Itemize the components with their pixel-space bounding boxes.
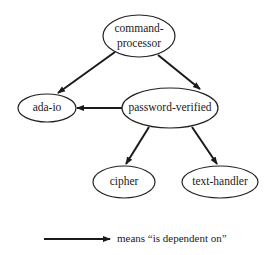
node-password-verified-label: password-verified — [128, 101, 211, 114]
edge-command-processor-to-password-verified — [158, 55, 200, 89]
node-command-processor: command- processor — [103, 15, 175, 57]
legend-text: means “is dependent on” — [117, 232, 227, 244]
node-text-handler: text-handler — [182, 166, 258, 198]
node-ada-io: ada-io — [18, 94, 76, 122]
node-command-processor-label-line2: processor — [117, 37, 161, 50]
dependency-diagram: command- processor ada-io password-verif… — [0, 0, 276, 255]
node-ada-io-label: ada-io — [33, 101, 62, 113]
node-cipher: cipher — [93, 166, 155, 198]
node-password-verified: password-verified — [122, 88, 218, 128]
node-command-processor-label-line1: command- — [114, 22, 163, 34]
node-text-handler-label: text-handler — [192, 175, 248, 187]
edge-password-verified-to-text-handler — [192, 127, 217, 164]
edge-password-verified-to-cipher — [126, 127, 149, 164]
node-cipher-label: cipher — [110, 175, 139, 188]
edge-command-processor-to-ada-io — [58, 52, 115, 93]
legend: means “is dependent on” — [44, 232, 227, 244]
